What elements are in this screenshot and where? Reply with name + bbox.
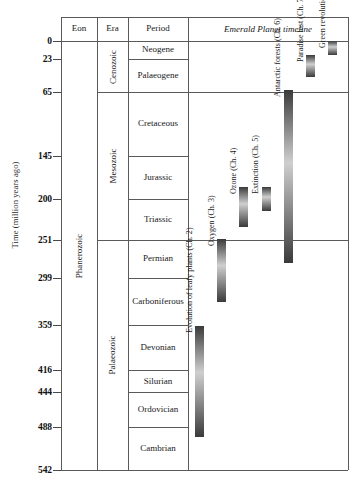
axis-tick-mark — [53, 370, 61, 371]
era-cell-cenozoic: Cenozoic — [97, 41, 128, 92]
axis-tick-label: 359 — [8, 320, 52, 330]
axis-tick-mark — [53, 41, 61, 42]
era-cell-palaeozoic: Palaeozoic — [97, 240, 128, 470]
era-cell-mesozoic: Mesozoic — [97, 92, 128, 239]
era-label: Cenozoic — [108, 50, 118, 84]
timeline-bar-label: Green revolution (Ch. 8) — [318, 0, 327, 48]
axis-tick-mark — [53, 156, 61, 157]
period-cell-triassic: Triassic — [128, 199, 188, 239]
table-header-period: Period — [128, 17, 188, 41]
timeline-bar — [284, 90, 293, 263]
axis-tick-mark — [53, 199, 61, 200]
period-cell-carboniferous: Carboniferous — [128, 278, 188, 325]
period-cell-jurassic: Jurassic — [128, 156, 188, 200]
table-header-era: Era — [97, 17, 128, 41]
eon-cell-phanerozoic: Phanerozoic — [61, 41, 97, 470]
period-cell-palaeogene: Palaeogene — [128, 59, 188, 92]
axis-tick-label: 200 — [8, 194, 52, 204]
timeline-bar-label: Paradise lost (Ch. 7) — [296, 0, 305, 62]
table-right-border — [348, 17, 349, 470]
axis-tick-mark — [53, 427, 61, 428]
era-label: Mesozoic — [108, 149, 118, 184]
period-cell-ordovician: Ordovician — [128, 392, 188, 427]
timeline-bar-label: Ozone (Ch. 4) — [229, 148, 238, 194]
axis-tick-mark — [53, 240, 61, 241]
table-bottom-border — [61, 470, 348, 471]
timeline-bar-label: Evolution of leafy plants (Ch. 2) — [185, 227, 194, 333]
axis-tick-label: 251 — [8, 235, 52, 245]
timeline-bar — [328, 41, 337, 55]
axis-tick-mark — [53, 325, 61, 326]
axis-tick-label: 488 — [8, 422, 52, 432]
timeline-bar — [306, 55, 315, 76]
axis-tick-mark — [53, 392, 61, 393]
geological-timescale-chart: Time (million years ago)0236514520025129… — [0, 0, 361, 493]
axis-tick-mark — [53, 59, 61, 60]
timeline-bar — [195, 326, 204, 437]
axis-tick-label: 145 — [8, 151, 52, 161]
axis-tick-mark — [53, 278, 61, 279]
era-label: Palaeozoic — [108, 335, 118, 374]
timeline-bar — [262, 187, 271, 211]
period-cell-cambrian: Cambrian — [128, 427, 188, 470]
period-cell-cretaceous: Cretaceous — [128, 92, 188, 155]
axis-tick-mark — [53, 470, 61, 471]
axis-tick-label: 65 — [8, 87, 52, 97]
period-cell-neogene: Neogene — [128, 41, 188, 59]
period-cell-permian: Permian — [128, 240, 188, 278]
axis-tick-mark — [53, 92, 61, 93]
timeline-bar — [239, 187, 248, 227]
axis-tick-label: 299 — [8, 273, 52, 283]
period-cell-devonian: Devonian — [128, 325, 188, 370]
timeline-bar — [217, 239, 226, 302]
table-header-eon: Eon — [61, 17, 97, 41]
timeline-bar-label: Oxygen (Ch. 3) — [207, 195, 216, 246]
axis-tick-label: 542 — [8, 465, 52, 475]
axis-tick-label: 416 — [8, 365, 52, 375]
eon-label: Phanerozoic — [74, 233, 84, 277]
axis-tick-label: 23 — [8, 54, 52, 64]
axis-tick-label: 444 — [8, 387, 52, 397]
period-cell-silurian: Silurian — [128, 370, 188, 392]
axis-title: Time (million years ago) — [10, 115, 20, 295]
timeline-bar-label: Extinction (Ch. 5) — [251, 136, 260, 195]
axis-tick-label: 0 — [8, 36, 52, 46]
timeline-bar-label: Antarctic forests (Ch. 6) — [273, 18, 282, 97]
